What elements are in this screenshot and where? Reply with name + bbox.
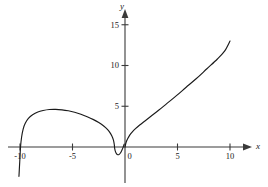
- curve-left-branch: [19, 109, 124, 176]
- x-axis-label: x: [256, 142, 260, 151]
- y-tick-label: 5: [115, 102, 119, 111]
- x-axis-arrow-icon: [243, 144, 252, 151]
- x-tick-label: -10: [14, 152, 25, 161]
- x-tick-label: 10: [226, 152, 235, 161]
- y-tick-label: 15: [111, 21, 120, 30]
- curve-right-branch: [125, 41, 230, 147]
- x-tick-label: 5: [175, 152, 179, 161]
- x-tick-label: 0: [128, 152, 132, 161]
- x-tick-label: -5: [69, 152, 76, 161]
- chart-figure: y x -10-50510 51015: [0, 0, 268, 187]
- y-axis-label: y: [120, 2, 124, 11]
- y-tick-label: 10: [111, 61, 120, 70]
